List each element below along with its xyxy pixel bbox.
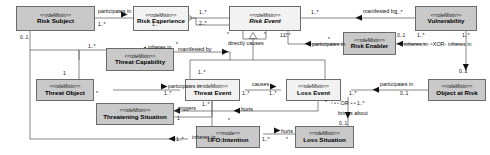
class-box-risk-event[interactable]: <<roleMixin>> Risk Event — [229, 6, 301, 31]
multiplicity-directly-causes-right: * — [264, 31, 266, 37]
class-box-risk-enabler[interactable]: <<roleMixin>> Risk Enabler — [343, 32, 396, 55]
assoc-label-or: - - OR - - — [334, 100, 355, 106]
class-name-label: Risk Experience — [137, 18, 185, 24]
multiplicity-re-participates: 1..* — [152, 21, 160, 27]
multiplicity-to-inheres: 1 — [63, 70, 66, 76]
class-name-label: Threat Object — [45, 90, 85, 96]
assoc-label-directly-causes: directly causes — [228, 40, 264, 46]
multiplicity-le-or: 1..* — [357, 100, 365, 106]
assoc-label-hurts-1: hurts — [241, 106, 253, 112]
class-box-loss-event[interactable]: <<roleMixin>> Loss Event — [286, 79, 341, 101]
class-box-risk-subject[interactable]: <<roleMixin>> Risk Subject — [16, 6, 95, 31]
class-name-label: Loss Situation — [303, 137, 346, 143]
assoc-label-inheres-in-1: inheres in — [148, 44, 171, 50]
multiplicity-tc-manifested: * — [176, 41, 178, 47]
multiplicity-ls-hurts: * — [286, 136, 288, 142]
class-box-threat-object[interactable]: <<roleMixin>> Threat Object — [36, 79, 94, 101]
assoc-label-inheres-in-4: inheres in — [192, 134, 215, 140]
multiplicity-oar-top: 0..1 — [459, 68, 467, 74]
multiplicity-oar-participates: 0..1 — [400, 90, 408, 96]
multiplicity-rs-participates: 1..* — [98, 21, 106, 27]
multiplicity-xor-left: 1..* — [417, 32, 425, 38]
class-name-label: Loss Event — [297, 90, 330, 96]
multiplicity-te-causes: 1..* — [242, 90, 250, 96]
class-name-label: Vulnerability — [428, 18, 465, 24]
class-name-label: Object at Risk — [436, 90, 477, 96]
uml-class-diagram: <<roleMixin>> Risk Subject <<roleMixin>>… — [0, 0, 490, 155]
class-box-risk-experience[interactable]: <<roleMixin>> Risk Experience — [133, 6, 189, 31]
multiplicity-enabler-gen: 1..* — [283, 32, 291, 38]
class-name-label: Threat Event — [194, 90, 231, 96]
assoc-label-inheres-in-2: inheres in — [404, 41, 427, 47]
assoc-label-participates-in-3: participates in — [168, 83, 201, 89]
assoc-label-xor: -XOR- — [431, 41, 446, 47]
assoc-label-manifested-by-1: manifested by — [363, 8, 397, 14]
multiplicity-to-participates: * — [96, 90, 98, 96]
class-box-threat-capability[interactable]: <<roleMixin>> Threat Capability — [106, 48, 174, 71]
multiplicity-enabler-inheres: 0..1 — [397, 32, 405, 38]
multiplicity-risk-manifested: 1..* — [311, 9, 319, 15]
multiplicity-te-triggers: 1..* — [202, 101, 210, 107]
multiplicity-vuln-manifested: 1..* — [395, 9, 403, 15]
multiplicity-te-participates: 1..* — [164, 90, 172, 96]
assoc-label-triggers: triggers — [178, 105, 196, 111]
multiplicity-directly-causes-left: * — [227, 31, 229, 37]
assoc-label-causes: causes — [252, 81, 269, 87]
class-box-threatening-situation[interactable]: <<roleMixin>> Threatening Situation — [96, 103, 174, 125]
multiplicity-le-participates: 1..* — [349, 90, 357, 96]
class-name-label: Threatening Situation — [103, 114, 167, 120]
multiplicity-tc-inheres: 1..* — [88, 43, 96, 49]
assoc-label-participates-in-1: participates in — [98, 8, 131, 14]
class-box-loss-situation[interactable]: <<roleMixin>> Loss Situation — [295, 126, 354, 148]
class-box-vulnerability[interactable]: <<roleMixin>> Vulnerability — [415, 6, 477, 31]
assoc-label-brings-about: brings about — [338, 110, 368, 116]
multiplicity-xor-right: 1..* — [462, 32, 470, 38]
class-name-label: Risk Enabler — [351, 43, 389, 49]
multiplicity-rs-inheres: 0..1 — [20, 34, 28, 40]
class-name-label: Risk Event — [249, 18, 281, 24]
assoc-label-participates-in-4: participates in — [380, 81, 413, 87]
multiplicity-enabler-participates: * — [328, 36, 330, 42]
multiplicity-ui-inheres: 1..* — [176, 136, 184, 142]
multiplicity-re-risk-bottom: 2..* — [199, 20, 207, 26]
assoc-label-inheres-in-3: inheres in — [448, 41, 471, 47]
multiplicity-re-risk-top: 1..* — [199, 9, 207, 15]
assoc-label-manifested-by-2: manifested by — [178, 46, 212, 52]
class-name-label: Threat Capability — [115, 59, 165, 65]
class-box-object-at-risk[interactable]: <<roleMixin>> Object at Risk — [428, 79, 486, 101]
multiplicity-te-gen: 1..* — [198, 69, 206, 75]
multiplicity-ui-hurts: 1..* — [262, 136, 270, 142]
multiplicity-ui-trig: * — [228, 117, 230, 123]
assoc-label-hurts-2: hurts — [281, 128, 293, 134]
multiplicity-brings-about: 0..1 — [339, 120, 347, 126]
multiplicity-le-hurts: * — [325, 99, 327, 105]
multiplicity-le-causes: 1..* — [269, 90, 277, 96]
multiplicity-ts-triggers: 1 — [177, 115, 180, 121]
class-name-label: Risk Subject — [37, 18, 74, 24]
